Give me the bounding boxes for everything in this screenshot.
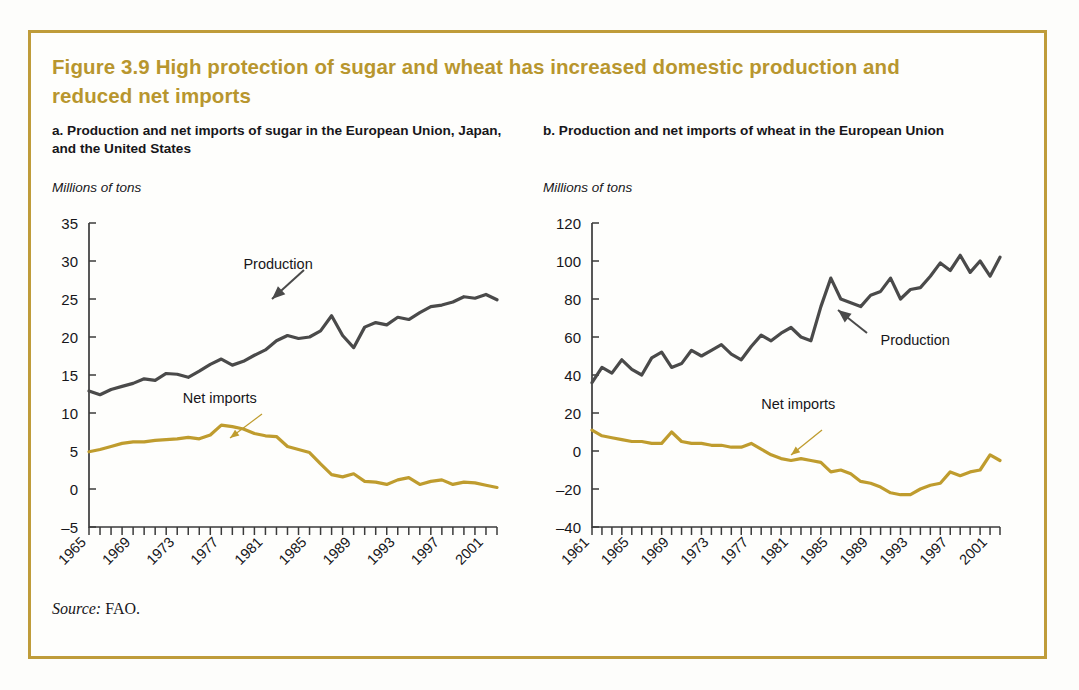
series-line-production — [592, 255, 1000, 382]
y-tick-label: 0 — [573, 443, 581, 460]
source-label: Source: — [52, 600, 101, 617]
x-tick-label: 1961 — [558, 534, 592, 568]
x-tick-label-group: 1993 — [876, 534, 910, 568]
panel-b-chart: –40–200204060801001201961196519691973197… — [0, 0, 1079, 690]
y-tick-label: 120 — [556, 215, 581, 232]
production-arrow-b — [838, 310, 867, 333]
source-value: FAO. — [101, 600, 140, 617]
x-tick-label-group: 1969 — [638, 534, 672, 568]
x-tick-label-group: 1989 — [837, 534, 871, 568]
x-tick-label: 1969 — [638, 534, 672, 568]
net-imports-arrow-b — [791, 430, 822, 455]
y-tick-label: 100 — [556, 253, 581, 270]
x-tick-label-group: 2001 — [956, 534, 990, 568]
y-tick-label: 20 — [564, 405, 581, 422]
figure-container: Figure 3.9 High protection of sugar and … — [0, 0, 1079, 690]
x-tick-label-group: 1985 — [797, 534, 831, 568]
x-tick-label: 1981 — [757, 534, 791, 568]
y-tick-label: 60 — [564, 329, 581, 346]
x-tick-label: 2001 — [956, 534, 990, 568]
x-tick-label: 1997 — [916, 534, 950, 568]
x-tick-label: 1985 — [797, 534, 831, 568]
y-tick-label: 40 — [564, 367, 581, 384]
x-tick-label-group: 1965 — [598, 534, 632, 568]
x-tick-label: 1965 — [598, 534, 632, 568]
x-tick-label-group: 1997 — [916, 534, 950, 568]
y-tick-label: –20 — [556, 481, 581, 498]
x-tick-label: 1993 — [876, 534, 910, 568]
x-tick-label: 1989 — [837, 534, 871, 568]
annotation-label: Net imports — [761, 396, 835, 412]
annotation-label: Production — [881, 332, 950, 348]
x-tick-label-group: 1977 — [717, 534, 751, 568]
y-tick-label: 80 — [564, 291, 581, 308]
axis-lines — [592, 223, 1000, 527]
x-tick-label: 1977 — [717, 534, 751, 568]
x-tick-label-group: 1973 — [677, 534, 711, 568]
series-line-net-imports — [592, 430, 1000, 495]
x-tick-label-group: 1961 — [558, 534, 592, 568]
y-tick-label: –40 — [556, 519, 581, 536]
x-tick-label: 1973 — [677, 534, 711, 568]
source-note: Source: FAO. — [52, 600, 140, 618]
x-tick-label-group: 1981 — [757, 534, 791, 568]
